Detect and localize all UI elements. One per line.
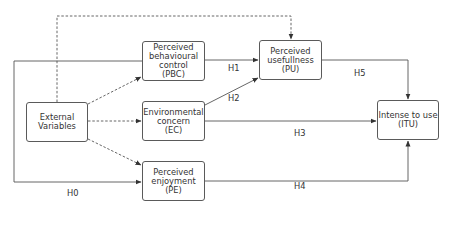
edge-label-h3: H3	[294, 128, 306, 138]
node-ec: Environmental concern (EC)	[142, 101, 205, 141]
edge-label-h0: H0	[67, 188, 79, 198]
node-itu: Intense to use (ITU)	[377, 100, 439, 140]
node-ev: External Variables	[26, 102, 88, 142]
node-pe: Perceived enjoyment (PE)	[142, 161, 205, 201]
edge-ev-pbc	[88, 77, 141, 104]
edge-label-h5: H5	[354, 68, 366, 78]
node-pu: Perceived usefullness (PU)	[259, 40, 322, 80]
node-pbc: Perceived behavioural control (PBC)	[142, 41, 205, 81]
edge-ev-pe	[88, 139, 141, 165]
edge-h5	[322, 60, 408, 99]
edge-h4	[205, 141, 408, 181]
edge-label-h2: H2	[228, 93, 240, 103]
edge-label-h1: H1	[228, 63, 240, 73]
edge-label-h4: H4	[294, 181, 306, 191]
